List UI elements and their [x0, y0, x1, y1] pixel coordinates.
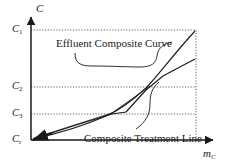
annotation-composite-treatment-line: Composite Treatment Line — [84, 133, 202, 144]
tick-label-c1-main: C — [12, 23, 19, 34]
composite-treatment-line-underlay — [34, 86, 150, 138]
tick-label-c1-subscript: 1 — [19, 28, 23, 36]
tick-label-c2-subscript: 2 — [19, 85, 23, 93]
annotation-effluent-composite-curve: Effluent Composite Curve — [56, 38, 172, 49]
x-axis-label-main: m — [203, 147, 211, 159]
tick-label-cr-subscript: r — [19, 138, 21, 146]
tick-label-c3-main: C — [12, 107, 19, 118]
tick-label-c1: C1 — [12, 24, 23, 35]
tick-label-c2: C2 — [12, 81, 23, 92]
tick-label-cr-main: C — [12, 133, 19, 144]
tick-label-c3-subscript: 3 — [19, 112, 23, 120]
origin-arrow-marker — [33, 133, 52, 140]
composite-treatment-line — [33, 59, 195, 139]
y-axis-label: C — [36, 3, 43, 14]
composite-curve-figure: C mC C1 C2 C3 Cr Effluent Composite Curv… — [0, 0, 228, 168]
x-axis-label: mC — [203, 148, 216, 159]
tick-label-c2-main: C — [12, 80, 19, 91]
x-axis-label-subscript: C — [211, 153, 216, 161]
tick-label-cr: Cr — [12, 134, 21, 145]
tick-label-c3: C3 — [12, 108, 23, 119]
